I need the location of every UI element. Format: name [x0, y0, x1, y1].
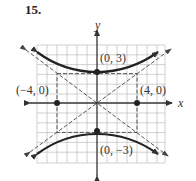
top-vertex-label: (0, 3) [100, 51, 126, 65]
x-axis-label: x [177, 96, 184, 110]
point-top-vertex [94, 69, 100, 75]
point-right [134, 100, 140, 106]
left-point-label: (−4, 0) [16, 83, 49, 97]
hyperbola-graph: y x (0, 3) (0, −3) (−4, 0) (4, 0) [0, 0, 196, 181]
right-point-label: (4, 0) [140, 83, 166, 97]
bottom-vertex-label: (0, −3) [100, 143, 133, 157]
y-axis-label: y [94, 18, 101, 32]
point-left [54, 100, 60, 106]
point-bottom-vertex [94, 128, 100, 134]
